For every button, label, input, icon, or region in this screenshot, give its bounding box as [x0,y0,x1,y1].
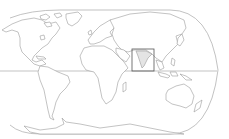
south-america [38,66,70,120]
madagascar [123,82,126,92]
hudson-islands [40,35,45,40]
southeast-asia [156,60,164,70]
japan [177,34,184,46]
world-locator-map: India / South Asia [0,0,229,139]
new-zealand [194,100,202,112]
world-map-svg [0,0,229,139]
caribbean [36,56,46,59]
greenland [66,12,82,26]
india-highlight [136,51,152,68]
british-isles [88,30,92,35]
philippines [171,58,175,66]
australia [166,84,194,108]
indonesia [158,72,192,80]
antarctica [24,118,184,134]
